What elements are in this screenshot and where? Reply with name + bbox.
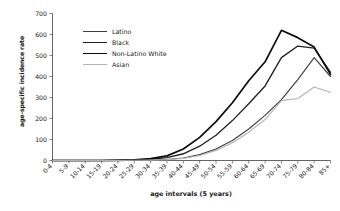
x-tick-label: 65-69 [248,162,266,180]
x-tick-label: 15-19 [85,162,103,180]
x-tick-label: 50-54 [199,162,217,180]
y-tick-label: 600 [35,31,47,38]
legend-label: Latino [112,28,131,35]
y-axis-ticks: 0100200300400500600700 [35,10,52,164]
x-tick-label: 35-39 [150,162,168,180]
legend-item-non-latino-white: Non-Latino White [83,48,167,59]
legend-swatch-icon [83,64,107,65]
x-tick-label: 85+ [317,162,331,176]
legend-swatch-icon [83,53,107,54]
y-tick-label: 200 [35,115,47,122]
x-tick-label: 70-74 [265,162,283,180]
x-axis-title: age intervals (5 years) [52,190,330,198]
x-tick-label: 55-59 [216,162,234,180]
x-tick-label: 20-24 [101,162,119,180]
y-tick-label: 400 [35,73,47,80]
x-tick-label: 10-14 [68,162,86,180]
legend-label: Black [112,39,129,46]
series-line-latino [53,58,331,161]
chart-container: age-specific incidence rate 010020030040… [0,0,340,211]
y-tick-label: 300 [35,94,47,101]
legend-label: Asian [112,61,129,68]
x-tick-label: 25-29 [117,162,135,180]
legend-item-latino: Latino [83,26,167,37]
x-tick-label: 5-9 [58,162,70,174]
y-tick-label: 0 [43,157,47,164]
chart-plot-area: 0100200300400500600700 0-45-910-1415-192… [0,0,340,211]
x-tick-label: 45-49 [183,162,201,180]
legend-swatch-icon [83,42,107,43]
x-tick-label: 0-4 [41,162,53,174]
x-tick-label: 30-34 [134,162,152,180]
legend-swatch-icon [83,31,107,32]
x-tick-label: 75-79 [281,162,299,180]
legend-item-black: Black [83,37,167,48]
legend-label: Non-Latino White [112,50,167,57]
x-tick-label: 40-44 [167,162,185,180]
chart-legend: LatinoBlackNon-Latino WhiteAsian [83,26,167,70]
y-tick-label: 500 [35,52,47,59]
x-tick-label: 80-84 [297,162,315,180]
y-tick-label: 700 [35,10,47,17]
x-tick-label: 60-64 [232,162,250,180]
x-axis-tick-labels: 0-45-910-1415-1920-2425-2930-3435-3940-4… [41,162,331,180]
legend-item-asian: Asian [83,59,167,70]
y-tick-label: 100 [35,136,47,143]
